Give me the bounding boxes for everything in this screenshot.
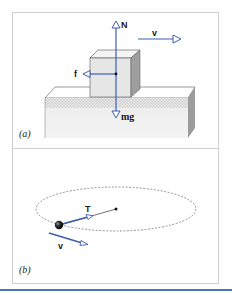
ball	[55, 221, 63, 229]
block-side	[131, 50, 140, 97]
block-front	[90, 58, 131, 97]
velocity-vector-b	[49, 233, 82, 243]
block-center-dot	[115, 73, 118, 76]
physics-figure: N mg f v T	[0, 0, 232, 295]
weight-label: mg	[121, 111, 134, 122]
friction-label: f	[74, 69, 78, 79]
panel-b-label: (b)	[19, 264, 31, 275]
circle-center-dot	[115, 208, 118, 211]
tension-label: T	[85, 204, 91, 214]
normal-force-label: N	[121, 20, 128, 30]
panel-a-label: (a)	[19, 128, 31, 139]
panel-b-diagram: T v	[36, 187, 196, 251]
tension-arrowhead-icon	[86, 215, 93, 220]
bottom-rule	[0, 289, 232, 291]
velocity-arrowhead-a-icon	[173, 35, 181, 43]
friction-arrowhead-icon	[83, 71, 90, 78]
tension-vector	[62, 217, 88, 224]
diagram-canvas: N mg f v T	[0, 0, 232, 295]
panel-a-diagram: N mg f v	[45, 20, 195, 138]
normal-force-arrowhead-icon	[112, 21, 120, 28]
velocity-label-b: v	[58, 241, 63, 251]
velocity-arrowhead-b-icon	[80, 241, 88, 246]
velocity-label-a: v	[152, 28, 157, 38]
